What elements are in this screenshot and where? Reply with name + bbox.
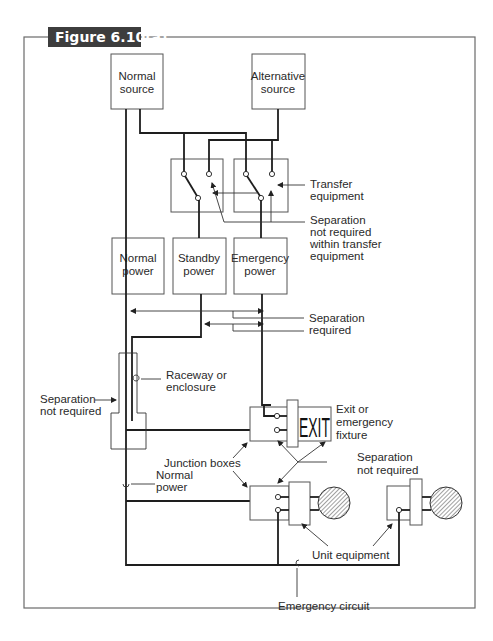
transfer-switch-standby — [171, 159, 223, 212]
svg-text:power: power — [244, 265, 275, 277]
figure-frame — [24, 37, 475, 608]
svg-text:Junction boxes: Junction boxes — [164, 457, 241, 469]
exit-fixture: EXIT — [250, 400, 331, 447]
svg-text:equipment: equipment — [310, 250, 365, 262]
svg-text:Normal: Normal — [119, 252, 156, 264]
figure-title: Figure 6.10(a) — [55, 29, 167, 45]
svg-text:enclosure: enclosure — [166, 381, 216, 393]
svg-text:fixture: fixture — [336, 429, 367, 441]
svg-text:Separation: Separation — [357, 451, 413, 463]
svg-text:source: source — [261, 83, 296, 95]
separation-not-required-right-callout: Separation not required — [278, 441, 418, 483]
emergency-power-box: Emergency power — [231, 238, 289, 294]
unit-equipment-callout: Unit equipment — [302, 524, 392, 561]
svg-text:not required: not required — [357, 464, 418, 476]
svg-text:power: power — [156, 481, 187, 493]
svg-text:not required: not required — [40, 405, 101, 417]
svg-text:Raceway or: Raceway or — [166, 369, 227, 381]
separation-not-required-left-callout: Separation not required — [40, 393, 116, 417]
svg-text:Separation: Separation — [40, 393, 96, 405]
svg-text:Separation: Separation — [310, 214, 366, 226]
normal-source-box: Normal source — [111, 54, 163, 109]
lamp-head-icon — [318, 487, 350, 519]
lamp-head-icon — [430, 487, 462, 519]
svg-text:Separation: Separation — [309, 312, 365, 324]
svg-text:power: power — [183, 265, 214, 277]
svg-text:equipment: equipment — [310, 190, 365, 202]
svg-text:within transfer: within transfer — [309, 238, 382, 250]
svg-text:required: required — [309, 324, 351, 336]
exit-sign-text: EXIT — [299, 413, 330, 443]
emergency-circuit: Emergency circuit — [278, 512, 399, 612]
svg-text:Standby: Standby — [178, 252, 220, 264]
svg-text:Unit equipment: Unit equipment — [312, 549, 390, 561]
normal-power-box: Normal power — [112, 238, 164, 294]
raceway-enclosure: Raceway or enclosure — [111, 353, 227, 449]
figure-6-10a-diagram: Figure 6.10(a) Normal source Alternative… — [0, 0, 493, 641]
svg-text:Emergency: Emergency — [231, 252, 289, 264]
svg-text:Transfer: Transfer — [310, 178, 353, 190]
normal-power-wire-callout: Normal power — [123, 469, 193, 493]
svg-text:source: source — [120, 83, 155, 95]
exit-fixture-callout: Exit or emergency fixture — [336, 403, 393, 441]
svg-text:power: power — [122, 265, 153, 277]
svg-text:not required: not required — [310, 226, 371, 238]
alternative-source-box: Alternative source — [251, 54, 305, 109]
transfer-equipment-callout: Transfer equipment — [278, 178, 365, 202]
separation-required-callout: Separation required — [131, 311, 365, 336]
svg-text:Emergency circuit: Emergency circuit — [278, 600, 370, 612]
unit-equipment-1 — [250, 482, 350, 525]
standby-power-box: Standby power — [173, 238, 226, 294]
svg-text:Normal: Normal — [118, 70, 155, 82]
svg-text:Normal: Normal — [156, 469, 193, 481]
svg-text:Alternative: Alternative — [251, 70, 305, 82]
svg-text:emergency: emergency — [336, 416, 393, 428]
svg-text:Exit or: Exit or — [336, 403, 369, 415]
